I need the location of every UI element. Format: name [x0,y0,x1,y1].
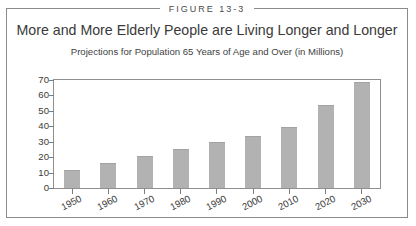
x-tick-mark [180,189,181,194]
x-tick-mark [108,189,109,194]
x-tick-label: 2030 [349,193,373,212]
figure-panel: FIGURE 13-3 More and More Elderly People… [6,8,408,218]
x-tick-mark [289,189,290,194]
x-tick-slot [54,189,90,194]
bar-slot [126,80,162,188]
x-label-slot: 2010 [271,195,307,221]
x-tick-slot [126,189,162,194]
x-label-slot: 1950 [54,195,90,221]
bar [64,170,80,189]
y-tick-label: 30 [38,137,49,147]
bar-slot [271,80,307,188]
x-tick-label: 1960 [95,193,119,212]
x-tick-slot [199,189,235,194]
bar-slot [235,80,271,188]
bar-chart-plot: 010203040506070 195019601970198019902000… [53,79,381,189]
x-label-slot: 1990 [199,195,235,221]
y-tick-label: 10 [38,168,49,178]
bar [173,149,189,188]
chart-title: More and More Elderly People are Living … [7,21,407,39]
figure-tag-label: FIGURE 13-3 [160,4,255,14]
bar-slot [54,80,90,188]
bar [281,127,297,188]
x-tick-label: 2010 [277,193,301,212]
x-tick-label: 1970 [132,193,156,212]
x-tick-slot [163,189,199,194]
x-tick-slot [90,189,126,194]
y-tick-label: 60 [38,90,49,100]
x-tick-slot [308,189,344,194]
x-label-slot: 1970 [126,195,162,221]
bar-slot [90,80,126,188]
x-tick-label: 1950 [59,193,83,212]
bar-slot [199,80,235,188]
bar-slot [344,80,380,188]
x-tick-slot [344,189,380,194]
x-tick-mark [144,189,145,194]
x-tick-label: 2000 [240,193,264,212]
x-tick-mark [361,189,362,194]
x-tick-mark [72,189,73,194]
y-tick-label: 40 [38,121,49,131]
bar [137,156,153,188]
x-tick-slot [271,189,307,194]
bar-slot [308,80,344,188]
x-tick-mark [325,189,326,194]
y-axis: 010203040506070 [23,79,49,189]
chart-subtitle: Projections for Population 65 Years of A… [7,45,407,59]
bar [100,163,116,188]
x-label-slot: 2000 [235,195,271,221]
bar [318,105,334,188]
bars-layer [54,80,380,188]
bar [209,142,225,188]
x-label-slot: 2030 [344,195,380,221]
x-label-slot: 2020 [308,195,344,221]
bar [245,136,261,188]
bar [354,82,370,188]
x-label-slot: 1960 [90,195,126,221]
x-tick-label: 2020 [313,193,337,212]
y-tick-label: 20 [38,152,49,162]
x-tick-label: 1980 [168,193,192,212]
title-block: More and More Elderly People are Living … [7,21,407,59]
x-label-slot: 1980 [163,195,199,221]
x-tick-label: 1990 [204,193,228,212]
x-tick-mark [216,189,217,194]
figure-tag: FIGURE 13-3 [7,1,407,17]
y-tick-label: 70 [38,75,49,85]
x-tick-mark [253,189,254,194]
x-tick-slot [235,189,271,194]
x-axis: 195019601970198019902000201020202030 [54,195,380,221]
bar-slot [163,80,199,188]
y-tick-label: 50 [38,106,49,116]
